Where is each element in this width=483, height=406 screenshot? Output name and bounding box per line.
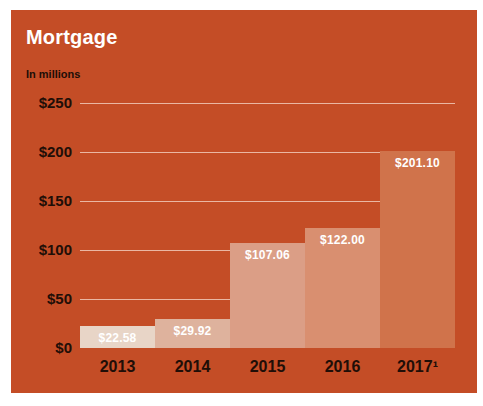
figure-canvas: Mortgage In millions $0$50$100$150$200$2… [0, 0, 483, 406]
bar-2017 [380, 151, 455, 348]
chart-title: Mortgage [26, 26, 118, 49]
chart-panel: Mortgage In millions $0$50$100$150$200$2… [11, 10, 477, 393]
y-axis-tick-label: $50 [11, 290, 72, 308]
y-axis-tick-label: $250 [11, 94, 72, 112]
x-axis-tick-label: 2016 [305, 358, 380, 376]
y-axis-tick-label: $0 [11, 339, 72, 357]
x-axis-tick-label: 2017¹ [380, 358, 455, 376]
bar-value-label: $201.10 [380, 156, 455, 170]
x-axis-tick-label: 2015 [230, 358, 305, 376]
bar-value-label: $29.92 [155, 324, 230, 338]
x-axis-tick-label: 2013 [80, 358, 155, 376]
bar-value-label: $22.58 [80, 331, 155, 345]
chart-subtitle: In millions [26, 68, 80, 80]
y-axis-tick-label: $150 [11, 192, 72, 210]
y-axis-tick-label: $200 [11, 143, 72, 161]
x-axis-tick-label: 2014 [155, 358, 230, 376]
bar-value-label: $122.00 [305, 233, 380, 247]
y-axis-tick-label: $100 [11, 241, 72, 259]
bar-value-label: $107.06 [230, 248, 305, 262]
gridline-250 [80, 103, 455, 104]
